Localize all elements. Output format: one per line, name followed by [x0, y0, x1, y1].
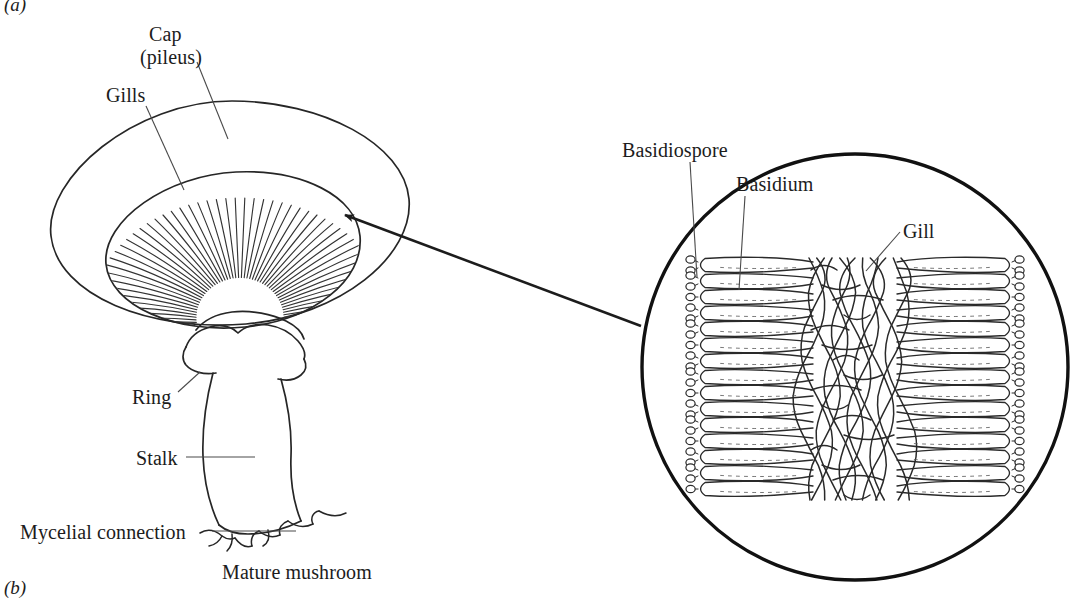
ring-right-edge	[278, 359, 306, 380]
leader-gills	[146, 106, 184, 190]
panel-a-tag: (a)	[4, 0, 26, 16]
label-basidiospore: Basidiospore	[622, 139, 728, 161]
stalk-left	[203, 373, 219, 525]
label-gills: Gills	[106, 84, 145, 106]
stalk-right	[281, 379, 301, 521]
ring-left-edge	[183, 347, 216, 374]
left-mushroom-drawing	[51, 101, 410, 551]
gill-lines	[90, 198, 390, 406]
gill-inset	[642, 154, 1068, 580]
caption-mature-mushroom: Mature mushroom	[222, 561, 372, 583]
label-gill: Gill	[903, 220, 935, 242]
ring-outline	[186, 324, 305, 359]
label-basidium: Basidium	[736, 173, 813, 195]
panel-b-tag: (b)	[4, 577, 26, 599]
mushroom-anatomy-figure: (a) (b) Cap (pileus) Gills Ring Stalk My…	[0, 0, 1086, 610]
label-cap-pileus: (pileus)	[140, 46, 202, 68]
leader-ring	[178, 372, 200, 392]
cap-outline	[51, 101, 410, 325]
label-ring: Ring	[132, 386, 171, 408]
magnification-arrow	[345, 215, 641, 326]
label-stalk: Stalk	[136, 447, 178, 469]
label-mycelial-connection: Mycelial connection	[20, 521, 186, 543]
label-cap: Cap	[149, 23, 182, 45]
figure-artwork	[0, 0, 1086, 610]
